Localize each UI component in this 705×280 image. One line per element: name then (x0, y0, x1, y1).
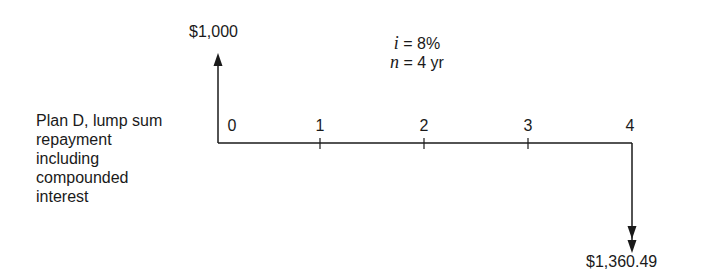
description-line: Plan D, lump sum (36, 111, 162, 130)
description-line: compounded (36, 168, 162, 187)
parameters-block: i = 8% n = 4 yr (372, 34, 462, 72)
down-arrow-icon (628, 226, 637, 239)
cash-inflow-label: $1,000 (189, 22, 238, 41)
period-label-1: 1 (316, 117, 325, 135)
period-label-4: 4 (626, 117, 635, 135)
plan-description: Plan D, lump sum repayment including com… (36, 111, 162, 206)
period-label-0: 0 (228, 117, 237, 135)
description-line: including (36, 149, 162, 168)
periods-value: = 4 yr (403, 54, 443, 71)
period-label-2: 2 (420, 117, 429, 135)
cash-outflow-label: $1,360.49 (586, 252, 657, 271)
description-line: interest (36, 187, 162, 206)
description-line: repayment (36, 130, 162, 149)
rate-value: = 8% (403, 35, 440, 52)
interest-rate: i = 8% (372, 34, 462, 53)
periods-count: n = 4 yr (372, 53, 462, 72)
up-arrow-icon (214, 53, 223, 66)
periods-symbol: n (390, 52, 399, 72)
period-label-3: 3 (524, 117, 533, 135)
rate-symbol: i (394, 33, 399, 53)
